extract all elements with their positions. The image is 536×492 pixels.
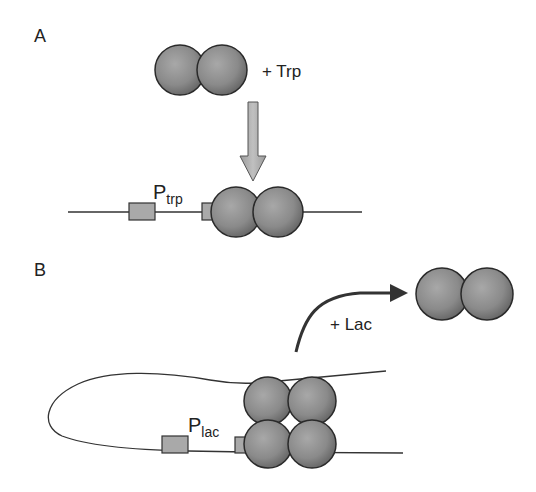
- diagram-canvas: A + Trp Ptrp B + Lac: [0, 0, 536, 492]
- lac-repressor-tetramer: [244, 377, 336, 468]
- panel-a: A + Trp Ptrp: [34, 26, 362, 237]
- panel-b: B + Lac Plac: [34, 260, 513, 468]
- trp-promoter-label: Ptrp: [153, 181, 183, 207]
- trp-promoter-box: [129, 203, 155, 220]
- trp-repressor-dimer-bound: [211, 187, 303, 237]
- lac-promoter-label: Plac: [188, 414, 219, 440]
- trp-repressor-dimer-free: [155, 45, 247, 95]
- binding-arrow-down-icon: [240, 102, 266, 181]
- panel-b-label: B: [34, 260, 46, 280]
- dna-loop-lac: [48, 371, 403, 453]
- lac-promoter-box: [162, 436, 188, 453]
- lac-repressor-dimer-released: [416, 268, 513, 320]
- trp-ligand-label: + Trp: [262, 62, 301, 81]
- panel-a-label: A: [34, 26, 46, 46]
- lac-ligand-label: + Lac: [330, 315, 373, 334]
